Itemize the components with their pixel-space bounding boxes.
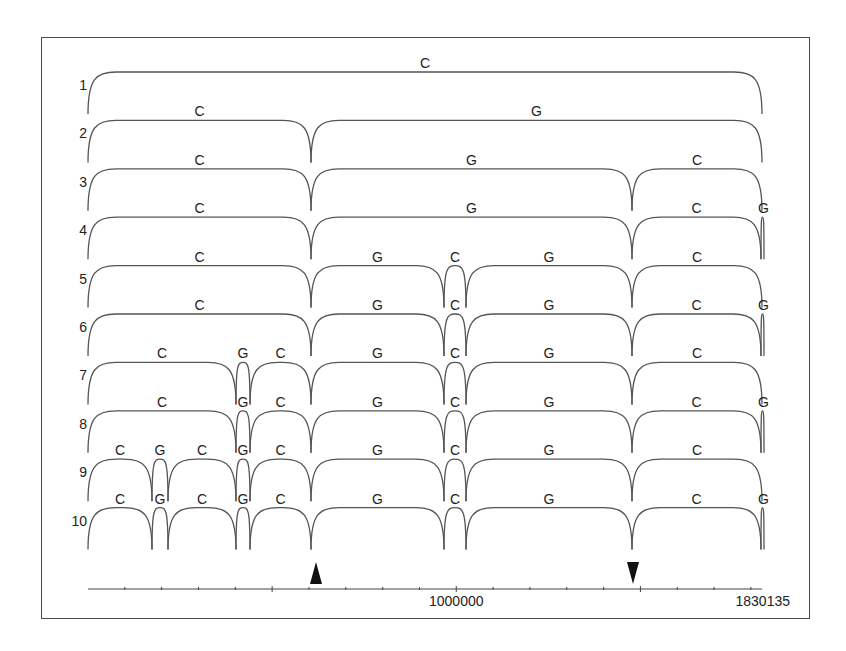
segment-label: C [115,491,125,507]
segment-label: G [238,442,249,458]
segmentation-row: 2CG [79,103,762,162]
segment-label: G [372,345,383,361]
segment-arc-g [152,508,168,550]
segment-label: C [194,249,204,265]
segment-label: G [544,297,555,313]
segment-label: C [115,442,125,458]
segment-arc-c [88,72,762,114]
segmentation-row: 6CGCGCG [79,297,769,356]
segment-label: C [197,442,207,458]
segment-label: C [275,394,285,410]
row-number-label: 9 [79,464,87,480]
down-arrow-icon [627,562,639,584]
segment-arc-c [444,508,466,550]
segment-label: G [238,491,249,507]
segment-label: C [691,491,701,507]
segment-label: C [691,297,701,313]
segmentation-row: 9CGCGCGCGC [79,442,762,501]
segment-label: C [194,200,204,216]
segment-label: C [450,249,460,265]
segment-label: G [544,345,555,361]
segment-arc-g [761,314,764,356]
segment-label: G [531,103,542,119]
row-number-label: 4 [79,222,87,238]
segmentation-row: 1C [79,55,762,114]
segment-label: G [372,249,383,265]
segment-arc-g [761,508,764,550]
segment-label: G [466,152,477,168]
segment-label: C [691,200,701,216]
segment-label: G [238,394,249,410]
segmentation-row: 4CGCG [79,200,769,259]
up-arrow-icon [310,562,322,584]
row-number-label: 5 [79,271,87,287]
segment-arc-g [466,508,632,550]
segment-label: C [692,442,702,458]
row-number-label: 6 [79,319,87,335]
segment-label: C [275,345,285,361]
segment-arc-g [761,411,764,453]
segment-arc-g [236,508,250,550]
segment-label: G [155,491,166,507]
segment-label: G [372,297,383,313]
row-number-label: 2 [79,125,87,141]
segment-label: G [544,249,555,265]
segment-arc-g [311,508,444,550]
segment-label: C [692,345,702,361]
segment-label: C [194,297,204,313]
segment-label: G [466,200,477,216]
segment-label: C [450,345,460,361]
segmentation-rows: 1C2CG3CGC4CGCG5CGCGC6CGCGCG7CGCGCGC8CGCG… [71,55,769,550]
segmentation-row: 10CGCGCGCGCG [71,491,769,550]
segment-label: C [692,249,702,265]
segment-label: C [194,103,204,119]
segment-label: C [691,394,701,410]
segment-label: C [692,152,702,168]
segmentation-row: 8CGCGCGCG [79,394,769,453]
segment-label: G [372,394,383,410]
segment-label: G [155,442,166,458]
axis-label: 1000000 [429,593,484,609]
segment-arc-g [761,217,764,259]
segment-arc-c [250,508,311,550]
segment-label: C [275,491,285,507]
segment-label: C [450,297,460,313]
segment-label: G [372,491,383,507]
row-number-label: 3 [79,174,87,190]
segment-label: G [544,394,555,410]
genome-axis: 10000001830135 [88,586,790,609]
segmentation-row: 5CGCGC [79,249,762,308]
segment-label: G [238,345,249,361]
segment-label: C [275,442,285,458]
segmentation-diagram: 1C2CG3CGC4CGCG5CGCGC6CGCGCG7CGCGCGC8CGCG… [0,0,846,651]
segment-label: C [157,394,167,410]
segment-label: C [157,345,167,361]
segment-label: G [758,297,769,313]
position-markers [310,562,639,584]
segment-label: G [758,491,769,507]
segment-label: C [450,491,460,507]
segment-label: G [758,200,769,216]
segment-arc-g [311,217,632,259]
segment-label: C [450,442,460,458]
row-number-label: 8 [79,416,87,432]
row-number-label: 7 [79,367,87,383]
segment-label: C [197,491,207,507]
segmentation-row: 7CGCGCGC [79,345,762,404]
segment-label: G [544,491,555,507]
axis-label: 1830135 [735,593,790,609]
segment-label: C [420,55,430,71]
row-number-label: 10 [71,513,87,529]
segment-label: G [758,394,769,410]
segmentation-row: 3CGC [79,152,762,211]
segment-label: G [372,442,383,458]
segment-label: C [194,152,204,168]
row-number-label: 1 [79,77,87,93]
segment-arc-c [632,508,761,550]
segment-label: C [450,394,460,410]
segment-arc-c [88,508,152,550]
segment-arc-c [168,508,236,550]
segment-label: G [544,442,555,458]
